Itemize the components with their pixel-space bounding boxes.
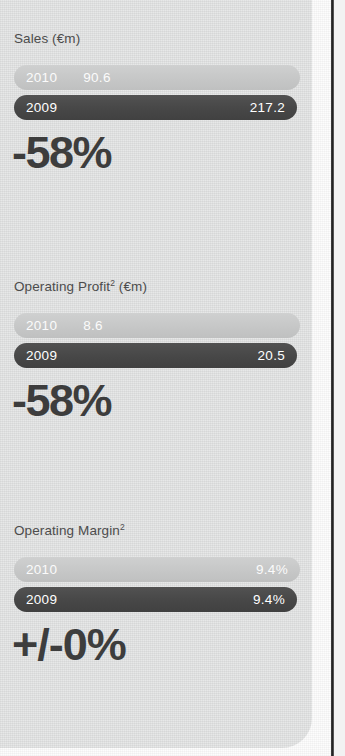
section-label-operating-margin: Operating Margin2 <box>14 522 312 540</box>
section-label-text: Operating Margin <box>14 523 120 538</box>
bar-2009-sales: 2009 217.2 <box>14 95 297 120</box>
bar-value-label: 217.2 <box>250 101 285 115</box>
change-figure-operating-margin: +/-0% <box>12 619 312 671</box>
bar-2010-operating-margin: 2010 9.4% <box>14 557 300 582</box>
bar-group-operating-profit: 2010 8.6 2009 20.5 <box>0 313 312 371</box>
bar-year-label: 2009 <box>26 101 57 115</box>
kpi-section-operating-margin: Operating Margin2 2010 9.4% 2009 9.4% +/… <box>0 522 312 671</box>
bar-year-label: 2009 <box>26 349 57 363</box>
bar-year-label: 2010 <box>26 563 57 577</box>
bar-value-label: 20.5 <box>258 349 285 363</box>
bar-2009-operating-profit: 2009 20.5 <box>14 343 297 368</box>
section-label-text: Sales ( <box>14 31 57 46</box>
bar-value-label: 8.6 <box>83 319 103 333</box>
page-outer-margin <box>334 0 345 756</box>
bar-year-label: 2009 <box>26 593 57 607</box>
bar-2010-sales: 2010 90.6 <box>14 65 300 90</box>
bar-year-label: 2010 <box>26 71 57 85</box>
section-label-unit: €m) <box>57 31 81 46</box>
bar-value-label: 90.6 <box>83 71 110 85</box>
change-figure-operating-profit: -58% <box>12 375 312 427</box>
page-spine-divider <box>331 0 334 756</box>
kpi-section-sales: Sales (€m) 2010 90.6 2009 217.2 -58% <box>0 30 312 179</box>
section-label-unit: (€m) <box>115 279 147 294</box>
bar-group-operating-margin: 2010 9.4% 2009 9.4% <box>0 557 312 615</box>
bar-year-label: 2010 <box>26 319 57 333</box>
bar-value-label: 9.4% <box>253 593 285 607</box>
kpi-section-operating-profit: Operating Profit2 (€m) 2010 8.6 2009 20.… <box>0 278 312 427</box>
section-label-sales: Sales (€m) <box>14 30 312 48</box>
section-label-operating-profit: Operating Profit2 (€m) <box>14 278 312 296</box>
bar-group-sales: 2010 90.6 2009 217.2 <box>0 65 312 123</box>
bar-2010-operating-profit: 2010 8.6 <box>14 313 300 338</box>
change-figure-sales: -58% <box>12 127 312 179</box>
bar-2009-operating-margin: 2009 9.4% <box>14 587 297 612</box>
section-label-text: Operating Profit <box>14 279 110 294</box>
bar-value-label: 9.4% <box>256 563 288 577</box>
footnote-marker: 2 <box>120 522 125 532</box>
